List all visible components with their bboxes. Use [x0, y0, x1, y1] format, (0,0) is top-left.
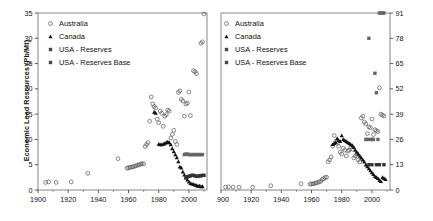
x-tick-label: 2000	[181, 195, 197, 204]
legend-label: Canada	[235, 32, 261, 41]
data-point	[86, 171, 90, 175]
data-point	[375, 91, 378, 94]
x-tick-label: 1920	[243, 195, 259, 204]
data-point	[382, 11, 385, 14]
data-point	[170, 132, 174, 136]
y-tick-label: 78	[396, 34, 404, 43]
data-point	[161, 124, 165, 128]
legend-label: USA - Reserves	[235, 45, 288, 54]
series-usa-reserves-base	[364, 11, 386, 141]
y-tick-label: 91	[396, 9, 404, 18]
data-point	[367, 37, 370, 40]
filled-triangle-icon	[222, 32, 231, 41]
filled-square-icon	[222, 45, 231, 54]
filled-square-icon	[222, 58, 231, 67]
data-point	[187, 90, 191, 94]
data-point	[231, 185, 235, 189]
x-tick-label: 1980	[334, 195, 350, 204]
data-point	[201, 153, 204, 156]
data-point	[375, 163, 378, 166]
data-point	[340, 133, 344, 137]
x-tick-label: 1920	[60, 195, 76, 204]
y-tick-label: 0	[29, 186, 33, 195]
legend-item[interactable]: USA - Reserves Base	[222, 56, 306, 69]
y-tick-label: 65	[396, 59, 404, 68]
y-tick-label: 0	[396, 186, 400, 195]
data-point	[372, 138, 375, 141]
data-point	[332, 134, 336, 138]
legend-label: USA - Reserves Base	[235, 58, 306, 67]
data-point	[299, 182, 303, 186]
data-point	[376, 138, 379, 141]
legend-label: USA - Reserves Base	[59, 58, 130, 67]
data-point	[148, 119, 152, 123]
legend-label: USA - Reserves	[59, 45, 112, 54]
open-circle-icon	[46, 19, 55, 28]
data-point	[372, 133, 376, 137]
series-usa-reserves	[184, 174, 206, 179]
filled-square-icon	[46, 45, 55, 54]
figure-root: 19001920194019601980200005101520253035 E…	[0, 0, 433, 221]
legend-item[interactable]: Australia	[222, 17, 306, 30]
data-point	[116, 157, 120, 161]
data-point	[176, 160, 180, 164]
open-circle-icon	[222, 19, 231, 28]
data-point	[382, 163, 385, 166]
data-point	[367, 163, 370, 166]
x-tick-label: 1940	[273, 195, 289, 204]
data-point	[269, 184, 273, 188]
data-point	[69, 180, 73, 184]
y-tick-label: 13	[396, 160, 404, 169]
data-point	[175, 143, 179, 147]
filled-square-icon	[46, 58, 55, 67]
data-point	[370, 163, 373, 166]
legend-label: Australia	[59, 19, 88, 28]
data-point	[172, 128, 176, 132]
y-tick-label: 39	[396, 110, 404, 119]
x-tick-label: 1940	[90, 195, 106, 204]
legend-item[interactable]: USA - Reserves	[222, 43, 306, 56]
series-australia	[224, 86, 386, 189]
lead-chart-panel: 19001920194019601980200005101520253035 E…	[0, 0, 217, 221]
data-point	[378, 163, 381, 166]
data-point	[54, 181, 58, 185]
x-tick-label: 1960	[121, 195, 137, 204]
x-tick-label: 1960	[304, 195, 320, 204]
x-tick-label: 1900	[216, 195, 229, 204]
data-point	[370, 117, 374, 121]
zinc-legend: AustraliaCanadaUSA - ReservesUSA - Reser…	[222, 17, 306, 69]
data-point	[378, 86, 382, 90]
legend-item[interactable]: USA - Reserves Base	[46, 56, 130, 69]
legend-item[interactable]: Canada	[222, 30, 306, 43]
legend-label: Australia	[235, 19, 264, 28]
filled-triangle-icon	[46, 32, 55, 41]
data-point	[237, 185, 241, 189]
data-point	[344, 154, 348, 158]
data-point	[366, 138, 369, 141]
data-point	[373, 72, 376, 75]
lead-y-axis-title: Economic Lead Resources (Pb/Mt)	[22, 21, 31, 181]
data-point	[189, 114, 193, 118]
legend-item[interactable]: USA - Reserves	[46, 43, 130, 56]
data-point	[251, 185, 255, 189]
x-tick-label: 2000	[364, 195, 380, 204]
x-tick-label: 1980	[151, 195, 167, 204]
series-usa-reserves	[367, 163, 385, 166]
legend-item[interactable]: Canada	[46, 30, 130, 43]
zinc-chart-panel: 190019201940196019802000013263952657891 …	[216, 0, 433, 221]
legend-label: Canada	[59, 32, 85, 41]
data-point	[202, 174, 205, 177]
y-tick-label: 52	[396, 84, 404, 93]
data-point	[182, 114, 186, 118]
y-tick-label: 26	[396, 135, 404, 144]
y-tick-label: 35	[25, 9, 33, 18]
data-point	[157, 121, 161, 125]
lead-legend: AustraliaCanadaUSA - ReservesUSA - Reser…	[46, 17, 130, 69]
data-point	[149, 95, 153, 99]
series-usa-reserves-base	[183, 152, 205, 156]
legend-item[interactable]: Australia	[46, 17, 130, 30]
x-tick-label: 1900	[30, 195, 46, 204]
data-point	[365, 132, 369, 136]
